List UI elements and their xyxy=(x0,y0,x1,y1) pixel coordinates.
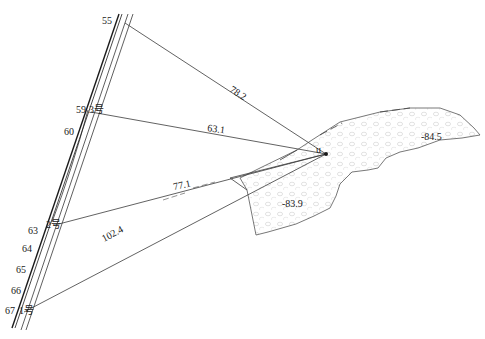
distance-labels: 78.2 63.1 77.1 102.4 xyxy=(100,83,249,243)
marker-64: 64 xyxy=(22,243,32,254)
marker-3hao: 3号 xyxy=(89,104,104,115)
marker-60: 60 xyxy=(64,126,74,137)
marker-67: 67 xyxy=(5,305,15,316)
mining-zone xyxy=(240,108,480,235)
elevation-83-9: -83.9 xyxy=(282,198,303,209)
marker-55: 55 xyxy=(102,15,112,26)
marker-59: 59 xyxy=(76,104,86,115)
marker-63: 63 xyxy=(28,225,38,236)
origin-label: u xyxy=(316,144,321,155)
marker-2hao: 2号 xyxy=(46,219,61,230)
marker-1hao: 1号 xyxy=(19,305,34,316)
distance-102-4: 102.4 xyxy=(100,223,125,243)
marker-66: 66 xyxy=(11,285,21,296)
distance-78-2: 78.2 xyxy=(228,83,249,102)
road-lines xyxy=(12,14,133,330)
origin-dot-icon xyxy=(324,152,328,156)
elevation-84-5: -84.5 xyxy=(421,131,442,142)
survey-diagram: u 55 59 3号 60 2号 63 64 65 66 67 1号 78.2 … xyxy=(0,0,485,339)
marker-65: 65 xyxy=(16,264,26,275)
road-markers: 55 59 3号 60 2号 63 64 65 66 67 1号 xyxy=(5,15,112,316)
